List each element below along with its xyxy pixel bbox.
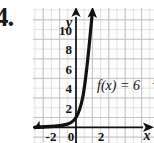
y-tick-label-4: 4	[66, 81, 73, 96]
problem-number: 4.	[0, 2, 25, 36]
x-tick-label-neg2: -2	[46, 129, 57, 143]
figure-container: 4.	[0, 0, 154, 143]
y-tick-label-8: 8	[66, 42, 73, 57]
graph-panel: 10 8 6 4 2 -2 0 2 y x f(x) = 6 x	[33, 8, 154, 143]
function-annotation-text: f(x) = 6	[97, 78, 140, 94]
y-axis-label: y	[64, 15, 73, 30]
x-tick-label-0: 0	[68, 129, 75, 143]
y-tick-label-6: 6	[66, 62, 73, 77]
x-tick-label-2: 2	[98, 129, 105, 143]
y-tick-label-2: 2	[66, 101, 73, 116]
coordinate-plane: 10 8 6 4 2 -2 0 2 y x f(x) = 6 x	[33, 8, 154, 143]
function-annotation-exponent: x	[152, 76, 154, 86]
x-axis-label: x	[143, 128, 151, 143]
